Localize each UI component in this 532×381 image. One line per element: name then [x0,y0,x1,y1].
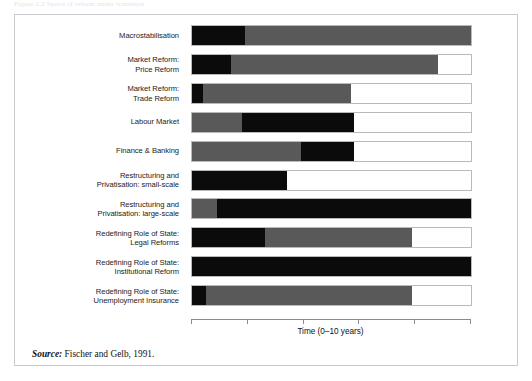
bar-segment-black [217,199,471,218]
chart-row-label: Labour Market [15,117,179,126]
bar-segment-gray [245,26,471,45]
axis-tick [303,319,304,324]
source-text: Fischer and Gelb, 1991. [62,349,154,359]
bar-segment-black [192,286,206,305]
figure-panel: Figure 2.2 Speed of reform under transit… [0,0,532,381]
bar-segment-white [287,171,471,190]
bar-segment-gray [192,199,217,218]
bar-segment-white [438,55,471,74]
chart-bar [191,256,472,277]
chart-bar [191,112,472,133]
chart-row: Redefining Role of State: Institutional … [15,256,519,277]
chart-row-label: Restructuring and Privatisation: large-s… [15,199,179,218]
axis-tick [191,319,192,324]
chart-row: Redefining Role of State: Unemployment I… [15,285,519,306]
chart-row-label: Finance & Banking [15,146,179,155]
bar-segment-gray [206,286,412,305]
chart-bar [191,285,472,306]
axis-tick [247,319,248,324]
bar-segment-black [192,55,231,74]
bar-segment-white [412,286,471,305]
chart-row: Redefining Role of State: Legal Reforms [15,227,519,248]
source-note: Source: Fischer and Gelb, 1991. [32,349,154,359]
chart-bar [191,25,472,46]
bar-segment-black [242,113,354,132]
chart-row: Market Reform: Price Reform [15,54,519,75]
time-axis [191,319,470,320]
figure-frame: MacrostabilisationMarket Reform: Price R… [14,14,518,366]
chart-row-label: Restructuring and Privatisation: small-s… [15,171,179,190]
chart-row-label: Macrostabilisation [15,31,179,40]
bar-segment-black [192,171,287,190]
axis-title: Time (0–10 years) [191,327,470,336]
chart-bar [191,227,472,248]
chart-row-label: Market Reform: Price Reform [15,55,179,74]
chart-row-label: Redefining Role of State: Unemployment I… [15,286,179,305]
bar-segment-gray [192,142,301,161]
source-label: Source: [32,349,62,359]
chart-bar [191,170,472,191]
chart-row: Finance & Banking [15,141,519,162]
chart-row-label: Redefining Role of State: Institutional … [15,257,179,276]
chart-row: Market Reform: Trade Reform [15,83,519,104]
chart-row: Restructuring and Privatisation: small-s… [15,170,519,191]
axis-tick [414,319,415,324]
chart-bar [191,141,472,162]
chart-row: Macrostabilisation [15,25,519,46]
bar-segment-gray [192,113,242,132]
bar-segment-black [192,84,203,103]
bar-segment-black [192,228,265,247]
bar-segment-gray [203,84,351,103]
bar-segment-white [354,142,471,161]
bar-segment-white [354,113,471,132]
bar-segment-gray [265,228,413,247]
bar-segment-black [192,26,245,45]
axis-tick [358,319,359,324]
chart-row: Labour Market [15,112,519,133]
chart-row: Restructuring and Privatisation: large-s… [15,198,519,219]
stacked-bar-chart: MacrostabilisationMarket Reform: Price R… [15,15,519,320]
figure-caption-cutoff: Figure 2.2 Speed of reform under transit… [14,0,314,9]
bar-segment-gray [231,55,437,74]
chart-row-label: Market Reform: Trade Reform [15,84,179,103]
chart-bar [191,83,472,104]
bar-segment-black [192,257,471,276]
chart-row-label: Redefining Role of State: Legal Reforms [15,228,179,247]
chart-bar [191,198,472,219]
bar-segment-white [351,84,471,103]
bar-segment-black [301,142,354,161]
bar-segment-white [412,228,471,247]
chart-bar [191,54,472,75]
axis-tick [470,319,471,324]
